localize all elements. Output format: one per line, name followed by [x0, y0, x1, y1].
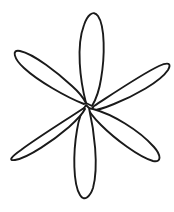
- flower-illustration: [0, 0, 174, 212]
- flower-drawing-canvas: [0, 0, 174, 212]
